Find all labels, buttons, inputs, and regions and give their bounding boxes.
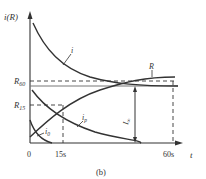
y-axis-label: i(R)	[4, 12, 18, 22]
curve-i-total-current	[33, 23, 178, 86]
origin-label: 0	[27, 150, 31, 159]
curve-label-ip: ip	[82, 113, 87, 123]
curve-label-r: R	[148, 62, 154, 71]
leader-i	[63, 54, 71, 65]
x-tick-60s: 60s	[163, 150, 174, 159]
curve-label-i0: i0	[45, 127, 50, 137]
x-axis-arrow-icon	[175, 141, 183, 146]
r60-label: R60	[13, 76, 25, 87]
steady-current-label: I∞	[121, 117, 132, 126]
arrow-up-icon	[133, 86, 137, 92]
x-axis-label: t	[190, 150, 193, 160]
x-axis	[30, 141, 183, 146]
figure-caption: (b)	[96, 167, 106, 177]
steady-current-arrow	[133, 86, 137, 143]
r15-label: R15	[13, 100, 25, 111]
curve-label-i: i	[71, 46, 73, 55]
x-tick-15s: 15s	[55, 150, 66, 159]
y-axis-arrow-icon	[28, 11, 33, 19]
diagram-canvas: i(R) t 0 15s 60s R60 R15 i R ip i0 I∞ (b…	[0, 0, 206, 179]
